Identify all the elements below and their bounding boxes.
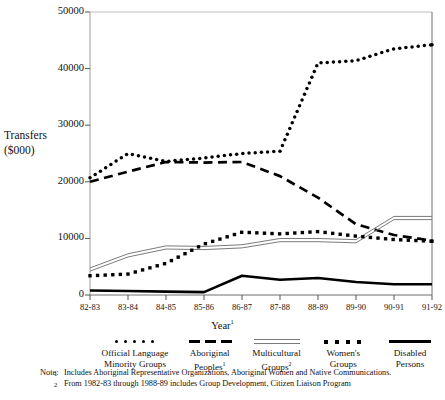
series-layer [88,43,434,292]
legend-marker-dashed-icon [187,338,233,346]
series-5 [90,276,432,292]
legend-label: Official LanguageMinority Groups [102,348,169,369]
x-axis-title-footnote-ref: 1 [231,318,234,325]
y-axis-title-line2: ($000) [4,143,47,158]
legend-item-3[interactable]: MulticulturalGroups2 [246,338,308,372]
legend-item-4[interactable]: Women'sGroups [312,338,374,369]
x-tick-label: 91-92 [410,302,445,312]
x-axis-ticks [90,295,432,300]
legend-marker-solid-thick-icon [387,338,433,346]
legend-marker-double-line-icon [254,338,300,346]
series-2 [90,162,432,241]
legend-item-5[interactable]: DisabledPersons [379,338,441,369]
series-1 [88,43,434,180]
footnote-marker: 2 [54,379,64,390]
legend-item-1[interactable]: Official LanguageMinority Groups [96,338,174,369]
footnote-text: Includes Aboriginal Representative Organ… [64,368,445,379]
y-tick-label: 40000 [26,62,84,73]
footnote-item-2: 2From 1982-83 through 1988-89 includes G… [54,379,445,390]
y-axis-title: Transfers ($000) [4,128,47,158]
y-axis-ticks [85,12,90,295]
legend-label: DisabledPersons [394,348,427,369]
y-tick-label: 30000 [26,118,84,129]
series-3 [90,216,432,271]
footnote-item-1: 1Includes Aboriginal Representative Orga… [54,368,445,379]
footnote-list: 1Includes Aboriginal Representative Orga… [40,368,445,390]
x-axis-title-text: Year [211,320,230,331]
legend-marker-round-dotted-icon [112,338,158,346]
y-tick-label: 50000 [26,5,84,16]
y-tick-label: 10000 [26,231,84,242]
chart-legend: Official LanguageMinority GroupsAborigin… [96,338,441,372]
x-axis-title: Year1 [0,318,445,331]
y-tick-label: 0 [26,288,84,299]
footnote-text: From 1982-83 through 1988-89 includes Gr… [64,379,445,390]
legend-item-2[interactable]: AboriginalPeoples1 [179,338,241,372]
y-axis-title-line1: Transfers [4,128,47,143]
legend-label: Women'sGroups [326,348,360,369]
footnotes: Note: 1Includes Aboriginal Representativ… [40,368,445,390]
footnotes-heading: Note: [40,368,59,378]
y-tick-label: 20000 [26,175,84,186]
legend-marker-square-dotted-icon [320,338,366,346]
series-4 [88,230,433,278]
